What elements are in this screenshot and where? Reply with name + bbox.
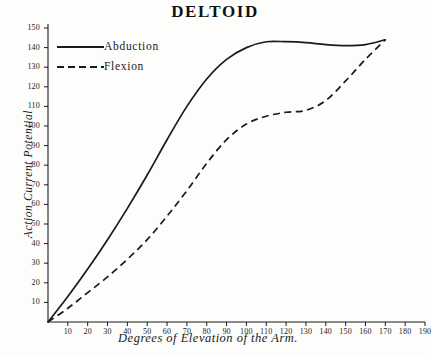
legend-label-abduction: Abduction	[104, 40, 159, 52]
legend-label-flexion: Flexion	[104, 60, 144, 72]
